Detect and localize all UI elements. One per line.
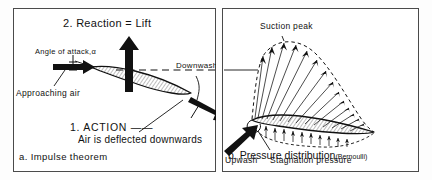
- leader-line-icon: [196, 76, 199, 100]
- label-action: 1. ACTION ——: [70, 121, 153, 133]
- caption-panel-b-paren: (Bernoulli): [335, 153, 367, 160]
- label-suction-peak: Suction peak: [260, 21, 313, 31]
- panel-b-graphics: [222, 8, 419, 172]
- label-reaction-lift: 2. Reaction = Lift: [63, 17, 151, 29]
- label-angle-of-attack: Angle of attack,α: [35, 47, 96, 56]
- caption-panel-a: a. Impulse theorem: [19, 151, 108, 162]
- leader-line-icon: [54, 70, 65, 86]
- leader-line-icon: [258, 131, 270, 150]
- caption-panel-b: b. Pressure distribution(Bernoulli): [228, 149, 367, 161]
- down-right-arrow-icon: [188, 97, 216, 121]
- leader-line-icon: [282, 36, 284, 41]
- figure-root: 2. Reaction = Lift Angle of attack,α App…: [0, 0, 432, 180]
- panel-b-content: Suction peak Upwash Stagnation pressure …: [222, 8, 419, 172]
- label-downwash: Downwash: [176, 61, 216, 70]
- airfoil-shape-icon: [252, 115, 374, 134]
- label-action-subtitle: Air is deflected downwards: [78, 134, 202, 145]
- panel-a-content: 2. Reaction = Lift Angle of attack,α App…: [13, 8, 216, 172]
- caption-panel-b-main: b. Pressure distribution: [228, 149, 335, 161]
- label-approaching-air: Approaching air: [16, 88, 80, 98]
